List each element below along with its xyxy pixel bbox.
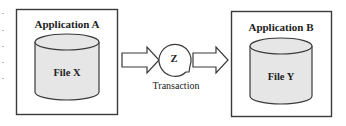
arrow-right-icon — [193, 47, 228, 73]
arrow-right-icon — [122, 47, 159, 73]
file-x-label: File X — [53, 67, 81, 78]
transaction-process: Z Transaction — [153, 44, 200, 91]
application-a-box: Application A File X — [17, 10, 118, 115]
process-symbol: Z — [170, 53, 177, 64]
transaction-label: Transaction — [153, 80, 200, 91]
file-y-label: File Y — [268, 71, 295, 82]
diagram-canvas: Application A File X Z Transaction Appli… — [0, 0, 346, 126]
application-a-title: Application A — [34, 18, 99, 30]
application-b-box: Application B File Y — [232, 12, 332, 117]
edge-marks — [2, 13, 4, 79]
application-b-title: Application B — [248, 21, 314, 33]
